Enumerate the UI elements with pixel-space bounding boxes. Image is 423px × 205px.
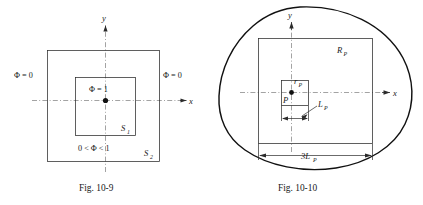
y-axis-arrowhead-fig1010 <box>289 22 293 29</box>
caption-fig-10-10: Fig. 10-10 <box>278 183 317 193</box>
point-p-dot <box>289 90 294 95</box>
x-axis-arrowhead-fig1010 <box>384 90 391 94</box>
small-rp-label-subscript: P <box>298 82 303 88</box>
figure-page: x y Φ = 0 Φ = 0 Φ = 1 0 < Φ < 1 S 1 S 2 … <box>0 0 423 205</box>
small-rp-label: r <box>294 76 298 86</box>
figure-10-10: R P r P P L P 3L P x y Fig. 10-10 <box>0 0 423 205</box>
y-axis-label-fig1010: y <box>287 10 292 20</box>
region-boundary-blob <box>219 7 412 170</box>
rp-label-subscript: P <box>343 51 348 57</box>
lp-label: L <box>317 99 323 109</box>
lp-leader-line <box>302 106 317 116</box>
x-axis-label-fig1010: x <box>392 88 397 98</box>
three-lp-label-subscript: P <box>312 157 317 163</box>
lp-arrow-left <box>282 117 288 121</box>
outer-square-rp <box>259 39 373 144</box>
three-lp-label: 3L <box>300 151 310 161</box>
lp-label-subscript: P <box>323 105 328 111</box>
rp-label: R <box>336 45 343 55</box>
point-p-label: P <box>282 95 289 105</box>
dimension-arrow-left <box>259 153 266 157</box>
